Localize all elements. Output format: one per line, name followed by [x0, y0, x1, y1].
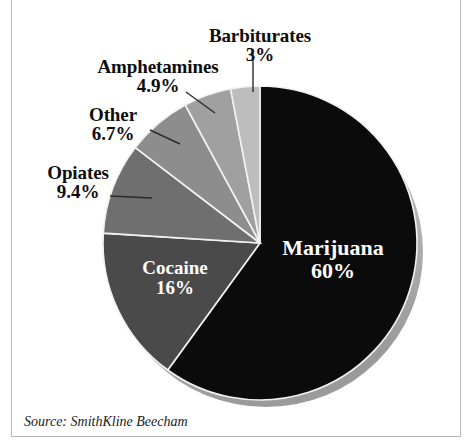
source-note: Source: SmithKline Beecham: [24, 414, 188, 430]
slice-label-opiates-value: 9.4%: [28, 182, 128, 201]
chart-page: Barbiturates 3% Amphetamines 4.9% Other …: [0, 0, 473, 448]
slice-label-marijuana-value: 60%: [268, 260, 398, 283]
slice-label-other-value: 6.7%: [63, 124, 163, 143]
slice-label-cocaine: Cocaine 16%: [119, 258, 231, 298]
slice-label-other: Other 6.7%: [63, 105, 163, 144]
slice-label-marijuana: Marijuana 60%: [268, 237, 398, 283]
slice-label-amphetamines-name: Amphetamines: [78, 57, 238, 76]
slice-label-amphetamines-value: 4.9%: [78, 76, 238, 95]
slice-label-cocaine-name: Cocaine: [119, 258, 231, 278]
slice-label-cocaine-value: 16%: [119, 278, 231, 298]
slice-label-opiates-name: Opiates: [28, 163, 128, 182]
slice-label-other-name: Other: [63, 105, 163, 124]
pie-chart: Barbiturates 3% Amphetamines 4.9% Other …: [0, 0, 473, 448]
slice-label-amphetamines: Amphetamines 4.9%: [78, 57, 238, 96]
slice-label-opiates: Opiates 9.4%: [28, 163, 128, 202]
slice-label-barbiturates-name: Barbiturates: [200, 26, 320, 45]
slice-label-marijuana-name: Marijuana: [268, 237, 398, 260]
